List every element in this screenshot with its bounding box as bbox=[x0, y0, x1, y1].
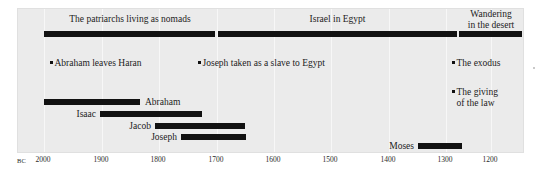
axis-tick-1500: 1500 bbox=[316, 155, 344, 164]
event-label-joseph-taken-as-slave: Joseph taken as a slave to Egypt bbox=[203, 58, 325, 68]
axis-tick-1900: 1900 bbox=[87, 155, 115, 164]
bullet-icon bbox=[50, 61, 53, 64]
lifespan-row-jacob: Jacob bbox=[0, 121, 540, 132]
lifespan-label-isaac: Isaac bbox=[30, 109, 96, 120]
era-label-wandering-in-the-desert: Wandering in the desert bbox=[459, 9, 523, 30]
bullet-icon bbox=[452, 90, 455, 93]
event-label-abraham-leaves-haran: Abraham leaves Haran bbox=[55, 58, 142, 68]
lifespan-bar-joseph bbox=[181, 134, 246, 140]
era-bar-wandering-in-the-desert bbox=[459, 31, 522, 37]
lifespan-bar-jacob bbox=[155, 123, 245, 129]
time-axis: BC 2000 1900 1800 1700 1600 1500 1400 13… bbox=[0, 155, 540, 169]
scan-speck bbox=[533, 67, 535, 69]
event-label-the-exodus: The exodus bbox=[457, 58, 501, 68]
era-label-wandering-line1: Wandering bbox=[470, 9, 511, 19]
event-label-giving-of-law-line1: The giving bbox=[457, 87, 498, 97]
event-joseph-taken-as-slave: Joseph taken as a slave to Egypt bbox=[198, 58, 325, 69]
lifespan-bar-moses bbox=[418, 143, 462, 149]
bullet-icon bbox=[452, 61, 455, 64]
bullet-icon bbox=[198, 61, 201, 64]
axis-prefix-bc: BC bbox=[17, 156, 26, 165]
lifespan-row-isaac: Isaac bbox=[0, 109, 540, 120]
axis-tick-2000: 2000 bbox=[29, 155, 57, 164]
lifespan-label-jacob: Jacob bbox=[85, 121, 151, 132]
era-bar-patriarchs bbox=[44, 31, 215, 37]
lifespan-label-moses: Moses bbox=[348, 141, 414, 152]
axis-tick-1800: 1800 bbox=[144, 155, 172, 164]
era-bar-israel-in-egypt bbox=[218, 31, 457, 37]
lifespan-row-abraham: Abraham bbox=[0, 97, 540, 108]
axis-tick-1700: 1700 bbox=[202, 155, 230, 164]
era-label-wandering-line2: in the desert bbox=[468, 20, 514, 30]
axis-tick-1400: 1400 bbox=[374, 155, 402, 164]
axis-tick-1300: 1300 bbox=[431, 155, 459, 164]
timeline-figure: The patriarchs living as nomads Israel i… bbox=[0, 0, 540, 181]
axis-tick-1600: 1600 bbox=[259, 155, 287, 164]
lifespan-label-abraham: Abraham bbox=[145, 97, 180, 108]
axis-tick-1200: 1200 bbox=[476, 155, 504, 164]
lifespan-row-moses: Moses bbox=[0, 141, 540, 152]
event-the-exodus: The exodus bbox=[452, 58, 501, 69]
lifespan-bar-abraham bbox=[44, 99, 140, 105]
event-abraham-leaves-haran: Abraham leaves Haran bbox=[50, 58, 142, 69]
lifespan-bar-isaac bbox=[100, 111, 202, 117]
era-label-israel-in-egypt: Israel in Egypt bbox=[218, 14, 457, 25]
era-label-patriarchs: The patriarchs living as nomads bbox=[44, 14, 216, 25]
